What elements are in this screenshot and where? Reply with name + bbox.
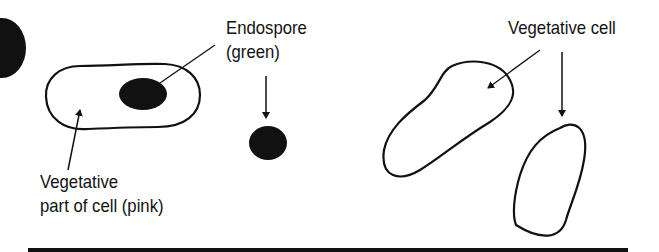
vegetative-cell-diagonal [383, 62, 513, 177]
sporulating-cell [46, 64, 200, 129]
arrow-vegetative-part [68, 110, 80, 170]
vegetative-cell-vertical [514, 125, 585, 236]
arrow-vegetative-cell-1 [488, 50, 540, 88]
label-vegetative: Vegetative [40, 170, 118, 193]
free-endospore [249, 126, 287, 160]
label-vegetative-cell: Vegetative cell [508, 16, 616, 39]
bottom-rule [28, 248, 628, 252]
label-endospore-color: (green) [226, 40, 280, 63]
label-vegetative-part-color: part of cell (pink) [40, 194, 164, 217]
label-endospore: Endospore [226, 16, 307, 39]
partial-dot-icon [0, 18, 26, 78]
